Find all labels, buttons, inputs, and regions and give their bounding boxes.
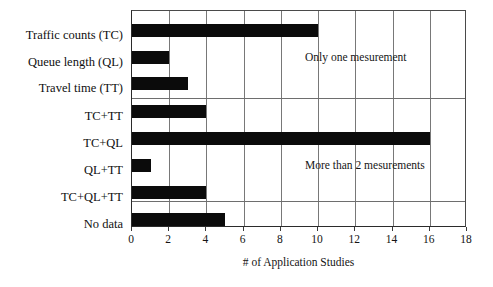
gridline-10 <box>318 11 319 226</box>
bar-chart: Traffic counts (TC) Queue length (QL) Tr… <box>0 0 493 287</box>
category-axis-labels: Traffic counts (TC) Queue length (QL) Tr… <box>0 10 127 227</box>
annotation-only-one-measurement: Only one mesurement <box>305 51 407 64</box>
xtick-mark-4 <box>205 227 206 231</box>
bar-tc-ql-tt <box>132 186 206 199</box>
group-separator-2 <box>132 201 465 202</box>
xtick-label-0: 0 <box>116 233 146 246</box>
category-label-traffic-counts: Traffic counts (TC) <box>26 28 123 42</box>
xtick-label-18: 18 <box>451 233 481 246</box>
xtick-label-12: 12 <box>339 233 369 246</box>
gridline-6 <box>244 11 245 226</box>
xtick-label-2: 2 <box>153 233 183 246</box>
bar-ql-tt <box>132 159 151 172</box>
gridline-12 <box>355 11 356 226</box>
xtick-mark-12 <box>354 227 355 231</box>
gridline-8 <box>281 11 282 226</box>
bar-travel-time <box>132 77 188 90</box>
xtick-label-16: 16 <box>414 233 444 246</box>
xtick-label-6: 6 <box>228 233 258 246</box>
xtick-label-8: 8 <box>265 233 295 246</box>
xtick-mark-0 <box>131 227 132 231</box>
bar-tc-ql <box>132 132 430 145</box>
category-label-tc-tt: TC+TT <box>85 109 123 123</box>
bar-tc-tt <box>132 105 206 118</box>
category-label-ql-tt: QL+TT <box>84 163 123 177</box>
group-separator-1 <box>132 98 465 99</box>
gridline-14 <box>393 11 394 226</box>
gridline-4 <box>206 11 207 226</box>
xtick-label-10: 10 <box>302 233 332 246</box>
xtick-mark-6 <box>243 227 244 231</box>
xtick-label-4: 4 <box>190 233 220 246</box>
bar-traffic-counts <box>132 24 318 37</box>
xtick-mark-2 <box>168 227 169 231</box>
xtick-mark-14 <box>392 227 393 231</box>
xtick-label-14: 14 <box>377 233 407 246</box>
annotation-more-than-2-measurements: More than 2 mesurements <box>305 159 425 172</box>
gridline-16 <box>430 11 431 226</box>
category-label-no-data: No data <box>84 217 123 231</box>
category-label-travel-time: Travel time (TT) <box>39 81 123 95</box>
category-label-tc-ql: TC+QL <box>83 136 123 150</box>
x-axis-title: # of Application Studies <box>131 256 466 268</box>
bar-queue-length <box>132 51 169 64</box>
xtick-mark-18 <box>466 227 467 231</box>
xtick-mark-10 <box>317 227 318 231</box>
plot-area: Only one mesurement More than 2 mesureme… <box>131 10 466 227</box>
xtick-mark-8 <box>280 227 281 231</box>
xtick-mark-16 <box>429 227 430 231</box>
category-label-queue-length: Queue length (QL) <box>28 55 123 69</box>
category-label-tc-ql-tt: TC+QL+TT <box>61 190 123 204</box>
bar-no-data <box>132 213 225 226</box>
